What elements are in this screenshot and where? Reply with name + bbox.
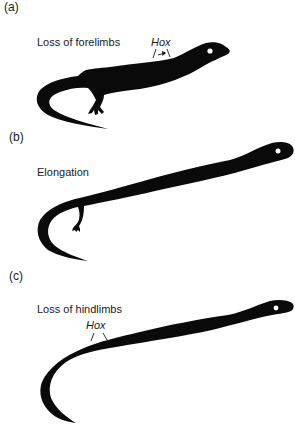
hox-marker-a <box>153 49 170 58</box>
hox-marker-c <box>91 333 107 341</box>
eye-a <box>207 48 212 53</box>
caption-elongation: Elongation <box>37 166 89 178</box>
figure-canvas <box>0 0 295 425</box>
panel-label-c: (c) <box>9 270 23 282</box>
panel-label-b: (b) <box>9 131 24 143</box>
animal-c-silhouette <box>40 300 293 423</box>
eye-b <box>276 149 281 154</box>
panel-label-a: (a) <box>4 1 19 13</box>
animal-a-silhouette <box>37 42 230 129</box>
gene-label-hox-c: Hox <box>86 319 106 331</box>
eye-c <box>274 306 279 311</box>
gene-label-hox-a: Hox <box>151 36 171 48</box>
animal-b-silhouette <box>38 142 294 261</box>
caption-loss-of-forelimbs: Loss of forelimbs <box>37 36 120 48</box>
caption-loss-of-hindlimbs: Loss of hindlimbs <box>37 303 122 315</box>
